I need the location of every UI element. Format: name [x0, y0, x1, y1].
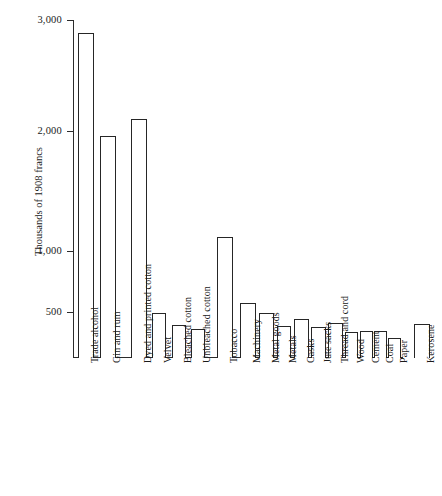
- x-axis-category-label: Tobacco: [229, 329, 239, 363]
- y-tick-mark: [67, 20, 74, 21]
- y-tick-mark: [67, 251, 74, 252]
- y-tick-label: 1,000: [0, 246, 62, 257]
- y-tick-label: 2,000: [0, 126, 62, 137]
- x-axis-category-label: Dyed and printed cotton: [143, 264, 153, 363]
- x-axis-category-label: Casks: [306, 339, 316, 363]
- x-axis-category-label: Gin and rum: [112, 311, 122, 363]
- x-axis-category-label: Wood: [356, 339, 366, 363]
- y-tick-label: 500: [0, 307, 62, 318]
- bar-chart: Thousands of 1908 francs 5001,0002,0003,…: [0, 0, 442, 496]
- y-axis-line: [73, 20, 74, 358]
- x-axis-category-label: Paper: [399, 340, 409, 363]
- x-axis-category-label: Velvet: [163, 337, 173, 363]
- y-tick-label: 3,000: [0, 15, 62, 26]
- x-axis-category-label: Metals: [288, 335, 298, 363]
- x-axis-category-label: Trade alcohol: [90, 307, 100, 363]
- x-axis-category-label: Metal goods: [271, 312, 281, 363]
- y-tick-mark: [67, 131, 74, 132]
- x-axis-category-label: Kerosene: [426, 324, 436, 363]
- x-axis-category-label: Cement: [371, 331, 381, 363]
- x-axis-category-label: Unbleached cotton: [202, 286, 212, 363]
- x-axis-category-label: Bleached cotton: [183, 297, 193, 363]
- x-axis-category-label: Thread and cord: [340, 296, 350, 363]
- y-tick-mark: [67, 312, 74, 313]
- y-axis-title: Thousands of 1908 francs: [33, 112, 44, 292]
- x-axis-category-label: Machinery: [252, 319, 262, 363]
- x-axis-category-label: Jute sacks: [323, 322, 333, 363]
- x-axis-category-label: Coal: [385, 344, 395, 363]
